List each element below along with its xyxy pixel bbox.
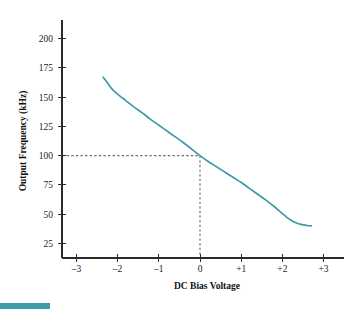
x-tick-label: –1 — [153, 264, 164, 274]
y-tick-label: 50 — [44, 210, 54, 220]
x-tick-label: +3 — [319, 264, 329, 274]
y-tick-label: 175 — [39, 63, 54, 73]
x-tick-label: –3 — [71, 264, 82, 274]
x-axis-title: DC Bias Voltage — [174, 281, 240, 291]
x-tick-label: –2 — [112, 264, 123, 274]
x-tick-label: +2 — [277, 264, 287, 274]
data-series-group — [103, 77, 311, 226]
x-tick-label: +1 — [236, 264, 246, 274]
bias-point-guides — [62, 156, 200, 258]
y-tick-label: 100 — [39, 151, 54, 161]
x-axis-ticks: –3–2–10+1+2+3 — [71, 254, 329, 274]
data-curve — [103, 77, 311, 226]
y-tick-label: 150 — [39, 93, 54, 103]
y-tick-label: 25 — [44, 239, 54, 249]
y-axis-title: Output Frequency (kHz) — [18, 91, 29, 192]
x-tick-label: 0 — [198, 264, 203, 274]
y-tick-label: 200 — [39, 34, 54, 44]
frequency-vs-bias-line-chart: 255075100125150175200 –3–2–10+1+2+3 DC B… — [0, 0, 361, 311]
y-tick-label: 75 — [44, 180, 54, 190]
y-tick-label: 125 — [39, 122, 54, 132]
chart-figure: 255075100125150175200 –3–2–10+1+2+3 DC B… — [0, 0, 361, 311]
chart-axes — [62, 20, 344, 258]
decorative-corner-bar — [0, 303, 50, 309]
